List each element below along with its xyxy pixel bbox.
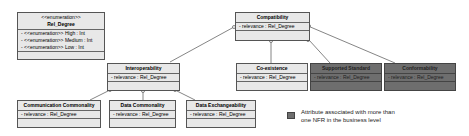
legend-line-1: Attribute associated with more than xyxy=(301,108,395,116)
class-name: Supported Standard xyxy=(311,64,381,74)
class-name: Conformability xyxy=(385,64,455,74)
class-attribute: - relevance : Rel_Degree xyxy=(237,74,307,82)
class-attribute: - relevance : Rel_Degree xyxy=(311,74,381,82)
class-interoperability[interactable]: Interoperability - relevance : Rel_Degre… xyxy=(107,63,180,91)
class-name: Co-existence xyxy=(237,64,307,74)
class-communication-commonality[interactable]: Communication Commonality - relevance : … xyxy=(17,100,101,128)
class-supported-standard[interactable]: Supported Standard - relevance : Rel_Deg… xyxy=(310,63,382,91)
enumeration-name: Rel_Degree xyxy=(47,21,75,27)
class-conformability[interactable]: Conformability - relevance : Rel_Degree xyxy=(384,63,456,91)
class-attribute: - relevance : Rel_Degree xyxy=(18,111,100,119)
literal-high: - <<enumeration>> High : Int xyxy=(21,30,101,37)
class-data-commonality[interactable]: Data Commonality - relevance : Rel_Degre… xyxy=(109,100,176,128)
class-name: Communication Commonality xyxy=(18,101,100,111)
class-name: Compatibility xyxy=(236,13,309,23)
class-attribute: - relevance : Rel_Degree xyxy=(108,74,179,82)
class-name: Data Commonality xyxy=(110,101,175,111)
enumeration-rel-degree[interactable]: <<enumeration>> Rel_Degree - <<enumerati… xyxy=(17,12,105,60)
class-attribute: - relevance : Rel_Degree xyxy=(236,23,309,31)
class-name: Data Exchangeability xyxy=(187,101,255,111)
class-attribute: - relevance : Rel_Degree xyxy=(110,111,175,119)
class-coexistence[interactable]: Co-existence - relevance : Rel_Degree xyxy=(236,63,308,91)
literal-low: - <<enumeration>> Low : Int xyxy=(21,44,101,51)
legend-line-2: one NFR in the business level xyxy=(301,116,395,124)
enumeration-stereotype: <<enumeration>> xyxy=(20,14,102,21)
enumeration-header: <<enumeration>> Rel_Degree xyxy=(18,13,104,30)
class-attribute: - relevance : Rel_Degree xyxy=(187,111,255,119)
class-compatibility[interactable]: Compatibility - relevance : Rel_Degree xyxy=(235,12,310,41)
legend-text: Attribute associated with more than one … xyxy=(301,108,395,124)
class-name: Interoperability xyxy=(108,64,179,74)
enumeration-literals: - <<enumeration>> High : Int - <<enumera… xyxy=(18,30,104,52)
legend-swatch xyxy=(287,112,295,119)
class-attribute: - relevance : Rel_Degree xyxy=(385,74,455,82)
class-data-exchangeability[interactable]: Data Exchangeability - relevance : Rel_D… xyxy=(186,100,256,128)
literal-medium: - <<enumeration>> Medium : Int xyxy=(21,37,101,44)
